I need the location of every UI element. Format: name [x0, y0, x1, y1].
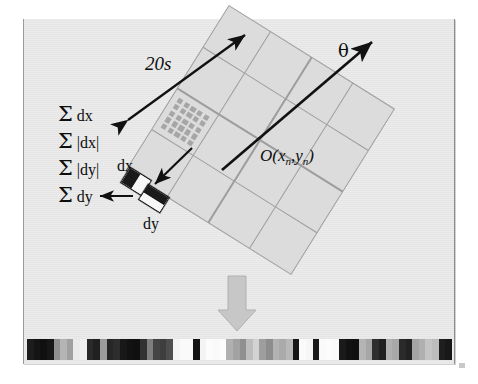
sample-point [194, 126, 201, 133]
descriptor-bar [259, 339, 266, 360]
descriptor-bar [306, 339, 313, 360]
sum-expression-dx: dx [77, 108, 93, 124]
descriptor-bar [193, 339, 200, 360]
sum-row-dy: Σ dy [58, 185, 99, 212]
sample-point [174, 131, 181, 138]
descriptor-bar [220, 339, 227, 360]
descriptor-bar [445, 339, 452, 360]
sample-point [198, 120, 205, 127]
sample-point [175, 114, 182, 121]
sum-row-abs-dy: Σ |dy| [58, 158, 99, 185]
sample-point [202, 114, 209, 121]
descriptor-bar [332, 339, 339, 360]
descriptor-bar [299, 339, 306, 360]
sample-point [179, 108, 186, 115]
descriptor-bar [140, 339, 147, 360]
descriptor-bar [147, 339, 154, 360]
sample-point [165, 117, 172, 124]
descriptor-bar [166, 339, 173, 360]
sum-labels: Σ dx Σ |dx| Σ |dy| Σ dy [58, 104, 99, 212]
sample-point [188, 122, 195, 129]
descriptor-bar [160, 339, 167, 360]
descriptor-bar [386, 339, 393, 360]
descriptor-bar [419, 339, 426, 360]
sum-expression-abs-dy: |dy| [77, 162, 99, 178]
descriptor-bar [93, 339, 100, 360]
descriptor-bar [313, 339, 320, 360]
descriptor-bar [293, 339, 300, 360]
descriptor-bar [425, 339, 432, 360]
descriptor-bar [279, 339, 286, 360]
descriptor-bar [180, 339, 187, 360]
sample-point [186, 139, 193, 146]
descriptor-bar [226, 339, 233, 360]
descriptor-bar [107, 339, 114, 360]
descriptor-bar [366, 339, 373, 360]
descriptor-bar [240, 339, 247, 360]
sigma-symbol: Σ [58, 158, 73, 179]
descriptor-bar [40, 339, 47, 360]
descriptor-bar [392, 339, 399, 360]
descriptor-bar [54, 339, 61, 360]
descriptor-bar [186, 339, 193, 360]
descriptor-bar [319, 339, 326, 360]
sample-point [183, 101, 190, 108]
descriptor-bar [206, 339, 213, 360]
descriptor-bar [60, 339, 67, 360]
sigma-symbol: Σ [58, 131, 73, 152]
descriptor-bar [73, 339, 80, 360]
sample-point [196, 110, 203, 117]
descriptor-bar [439, 339, 446, 360]
descriptor-bar [399, 339, 406, 360]
descriptor-bar [326, 339, 333, 360]
panel-left-border [23, 19, 24, 364]
descriptor-bar [286, 339, 293, 360]
sum-expression-dy: dy [77, 189, 93, 205]
descriptor-bar [173, 339, 180, 360]
descriptor-bar [406, 339, 413, 360]
descriptor-bar [352, 339, 359, 360]
descriptor-bar [120, 339, 127, 360]
descriptor-bar [273, 339, 280, 360]
descriptor-bar [379, 339, 386, 360]
sample-point [171, 121, 178, 128]
sum-row-abs-dx: Σ |dx| [58, 131, 99, 158]
descriptor-bar [153, 339, 160, 360]
sample-point [173, 104, 180, 111]
origin-label: O(xn,yn) [260, 147, 314, 167]
descriptor-bar [27, 339, 34, 360]
descriptor-bar [47, 339, 54, 360]
sample-point [186, 112, 193, 119]
descriptor-bar [127, 339, 134, 360]
descriptor-bar [253, 339, 260, 360]
sample-point [192, 116, 199, 123]
descriptor-bar [67, 339, 74, 360]
panel-right-border [454, 19, 455, 364]
descriptor-bar [339, 339, 346, 360]
descriptor-bar [200, 339, 207, 360]
sigma-symbol: Σ [58, 185, 73, 206]
sample-point [169, 110, 176, 117]
descriptor-bar [432, 339, 439, 360]
descriptor-bar [100, 339, 107, 360]
sum-row-dx: Σ dx [58, 104, 99, 131]
sample-point [180, 135, 187, 142]
sample-point [190, 133, 197, 140]
figure-root: Σ dx Σ |dx| Σ |dy| Σ dy 20s θ O(xn,yn) d… [0, 0, 478, 384]
sample-point [167, 127, 174, 134]
descriptor-bar [372, 339, 379, 360]
descriptor-bar [80, 339, 87, 360]
descriptor-bar [87, 339, 94, 360]
sum-expression-abs-dx: |dx| [77, 135, 99, 151]
descriptor-bar [266, 339, 273, 360]
descriptor-bar [213, 339, 220, 360]
sigma-symbol: Σ [58, 104, 73, 125]
sample-point [184, 129, 191, 136]
descriptor-bar [359, 339, 366, 360]
descriptor-bar [34, 339, 41, 360]
descriptor-bar [246, 339, 253, 360]
descriptor-bar [113, 339, 120, 360]
sample-point [178, 125, 185, 132]
sample-point [190, 106, 197, 113]
corner-artifact [459, 363, 465, 368]
